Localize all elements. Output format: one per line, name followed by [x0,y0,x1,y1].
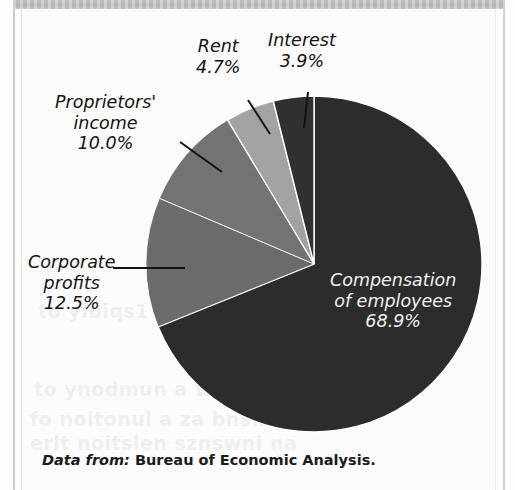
slice-label-line1: Proprietors' [55,92,156,113]
slice-label-value: 3.9% [268,51,336,72]
pie-slices-group [146,96,482,432]
slice-label: Compensationof employees68.9% [330,270,456,332]
slice-label-value: 12.5% [28,293,115,314]
slice-label-value: 68.9% [330,311,456,332]
slice-label-line2: of employees [330,291,456,312]
pie-svg [0,0,515,490]
slice-label: Proprietors'income10.0% [55,92,156,154]
slice-label-line2: income [55,113,156,134]
slice-label-line1: Compensation [330,270,456,291]
slice-label: Rent4.7% [196,36,240,77]
slice-label-line2: profits [28,273,115,294]
caption-lead: Data from: [42,452,130,468]
slice-label: Interest3.9% [268,30,336,71]
caption-source: Bureau of Economic Analysis. [135,452,376,468]
slice-label-line1: Corporate [28,252,115,273]
slice-label-value: 4.7% [196,57,240,78]
slice-label-line1: Interest [268,30,336,51]
slice-label-value: 10.0% [55,133,156,154]
pie-chart-figure: to ylbiqs1to ynodmun a worlz afo noitonu… [0,0,515,490]
slice-label-line1: Rent [196,36,240,57]
figure-caption: Data from: Bureau of Economic Analysis. [42,452,376,468]
slice-label: Corporateprofits12.5% [28,252,115,314]
